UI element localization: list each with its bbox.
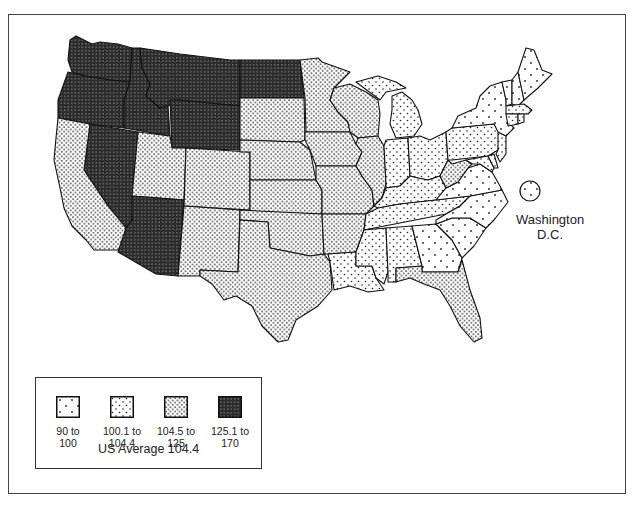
state-ne (240, 140, 316, 180)
state-ct (506, 114, 518, 126)
state-wy (170, 100, 240, 150)
legend: 90 to 100 100.1 to 104.4 104.5 to 125 12… (35, 377, 262, 469)
state-ia (305, 132, 362, 166)
us-average-label: US Average 104.4 (36, 442, 261, 456)
state-ks (250, 180, 322, 214)
state-ma (506, 104, 532, 114)
dc-label-line2: D.C. (516, 227, 584, 242)
state-fl (396, 260, 482, 342)
legend-swatch-sparse-dots (56, 396, 80, 418)
legend-swatch-dark-dense (218, 396, 242, 418)
dc-label-line1: Washington (516, 212, 584, 227)
state-me (518, 48, 552, 100)
state-nd (240, 60, 304, 98)
state-nj (496, 132, 506, 162)
dc-label: Washington D.C. (516, 212, 584, 242)
state-sd (240, 98, 305, 142)
states-layer (54, 36, 552, 342)
state-co (184, 148, 250, 210)
legend-swatch-light-dots (110, 396, 134, 418)
state-nm (178, 206, 240, 276)
state-ri (518, 114, 524, 124)
legend-swatch-medium-dots (164, 396, 188, 418)
state-mt (140, 48, 240, 108)
dc-marker (520, 181, 540, 201)
